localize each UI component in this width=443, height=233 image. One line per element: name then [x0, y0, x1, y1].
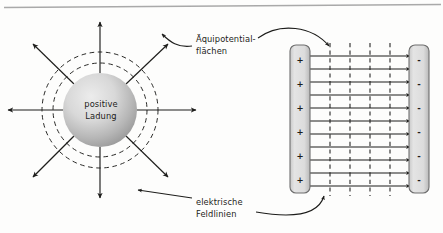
- radial-arrow-down-left: [33, 136, 74, 177]
- capacitor-group: + + + + + + - - - - - -: [290, 43, 429, 196]
- top-rule-divider: [4, 5, 441, 8]
- fieldlines-leader-right: [256, 196, 324, 215]
- sphere-label-line2: Ladung: [85, 111, 116, 121]
- plus-sign-5: +: [296, 151, 303, 161]
- minus-sign-3: -: [417, 103, 421, 113]
- positive-plate: + + + + + +: [290, 45, 310, 193]
- radial-arrow-up-left: [33, 44, 74, 84]
- figure-canvas: positive Ladung: [0, 0, 443, 233]
- plus-sign-1: +: [296, 55, 303, 65]
- plus-sign-2: +: [296, 79, 303, 89]
- minus-sign-2: -: [417, 79, 421, 89]
- equipotential-label-line2: flächen: [196, 46, 227, 56]
- minus-sign-4: -: [417, 127, 421, 137]
- negative-plate: - - - - - -: [409, 45, 429, 193]
- equipotential-label-line1: Äquipotential-: [196, 34, 256, 44]
- equipotential-leader-right: [258, 28, 329, 46]
- negative-plate-body: [409, 45, 429, 193]
- fieldlines-label-line2: Feldlinien: [196, 209, 237, 219]
- physics-diagram: positive Ladung: [0, 0, 443, 233]
- radial-arrow-up-right: [126, 44, 168, 84]
- minus-sign-5: -: [417, 151, 421, 161]
- point-charge-group: positive Ladung: [8, 22, 196, 198]
- equipotential-leader-left: [162, 34, 192, 46]
- fieldlines-leader-left: [138, 190, 192, 198]
- sphere-label-line1: positive: [84, 99, 117, 109]
- capacitor-field-lines: [310, 56, 410, 186]
- minus-sign-1: -: [417, 55, 421, 65]
- plus-sign-6: +: [296, 175, 303, 185]
- plus-sign-4: +: [296, 127, 303, 137]
- plus-sign-3: +: [296, 103, 303, 113]
- minus-sign-6: -: [417, 175, 421, 185]
- positive-plate-body: [290, 45, 310, 193]
- radial-arrow-down-right: [126, 136, 168, 177]
- positive-charge-sphere: [63, 73, 137, 147]
- fieldlines-annotation: elektrische Feldlinien: [138, 190, 324, 219]
- fieldlines-label-line1: elektrische: [196, 197, 243, 207]
